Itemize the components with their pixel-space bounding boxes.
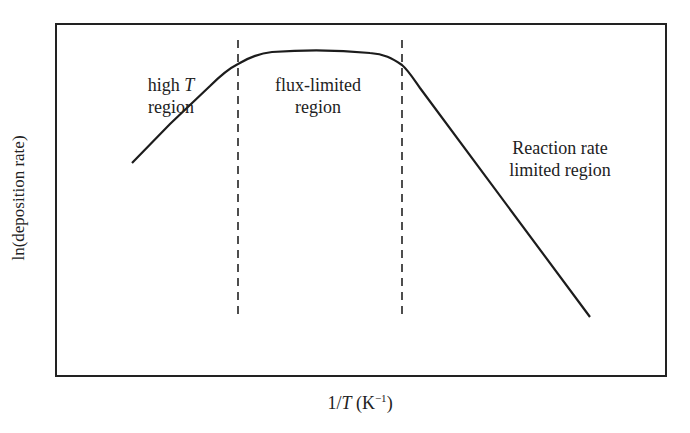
x-axis-label: 1/T (K−1): [300, 392, 420, 414]
chart-canvas: [0, 0, 690, 433]
flux-limited-region-label: flux-limited region: [258, 74, 378, 118]
reaction-rate-limited-region-label: Reaction rate limited region: [490, 137, 630, 181]
high-t-region-label: high T region: [136, 74, 206, 118]
y-axis-label: ln(deposition rate): [9, 123, 29, 273]
